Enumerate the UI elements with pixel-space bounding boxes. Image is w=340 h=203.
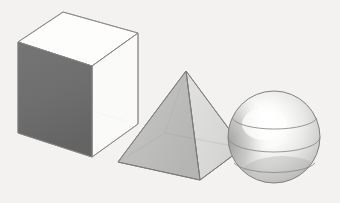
- sphere-specular-highlight: [242, 108, 286, 140]
- illustration-canvas: [0, 0, 340, 203]
- geometric-solids-svg: [0, 0, 340, 203]
- cube-shape: [18, 12, 138, 157]
